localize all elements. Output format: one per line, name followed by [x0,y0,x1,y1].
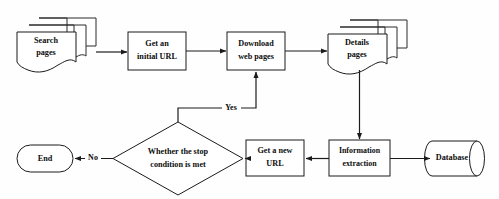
database-label: Database [436,153,469,162]
flowchart-svg: Search pages Get an initial URL Download… [0,0,499,199]
node-end[interactable]: End [17,145,73,172]
edge-label-yes: Yes [225,103,237,112]
node-database[interactable]: Database [425,141,485,176]
edge-stop-condition-to-end: No [75,153,113,164]
flowchart-canvas: Search pages Get an initial URL Download… [0,0,499,199]
search-pages-label-line2: pages [36,48,56,57]
search-pages-label-line1: Search [34,36,58,45]
edge-line-e9 [178,72,256,122]
node-details-pages[interactable]: Details pages [328,20,407,74]
node-get-initial-url[interactable]: Get an initial URL [128,32,186,70]
stop-condition-diamond [113,122,243,195]
edge-stop-condition-to-download-web-pages: Yes [178,72,256,122]
download-web-pages-label-line2: web pages [238,52,274,61]
information-extraction-label-line2: extraction [342,159,377,168]
information-extraction-label-line1: Information [339,146,381,155]
end-label: End [38,154,53,163]
stop-condition-label-line2: condition is met [150,160,206,169]
get-initial-url-label-line1: Get an [145,39,169,48]
node-stop-condition[interactable]: Whether the stop condition is met [113,122,243,195]
get-new-url-label-line2: URL [266,159,284,168]
node-get-new-url[interactable]: Get a new URL [246,140,304,176]
get-new-url-label-line1: Get a new [257,146,292,155]
stop-condition-label-line1: Whether the stop [148,147,209,156]
get-initial-url-label-line2: initial URL [137,52,177,61]
download-web-pages-label-line1: Download [238,39,274,48]
details-pages-label-line2: pages [347,50,367,59]
node-search-pages[interactable]: Search pages [17,18,96,72]
details-pages-label-line1: Details [345,38,369,47]
node-information-extraction[interactable]: Information extraction [329,140,390,176]
edge-label-no: No [88,153,98,162]
node-download-web-pages[interactable]: Download web pages [227,32,285,70]
